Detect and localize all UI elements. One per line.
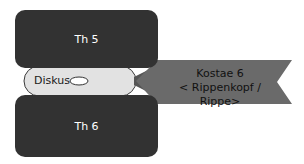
disc-label: Diskus	[34, 74, 70, 87]
vertebra-th6-label: Th 6	[15, 120, 158, 133]
callout-line1: Kostae 6	[165, 67, 275, 81]
vertebra-th5-label: Th 5	[15, 33, 158, 46]
callout-line2: < Rippenkopf / Rippe>	[165, 81, 275, 109]
callout-text: Kostae 6 < Rippenkopf / Rippe>	[165, 67, 275, 109]
nucleus-icon	[70, 77, 88, 85]
